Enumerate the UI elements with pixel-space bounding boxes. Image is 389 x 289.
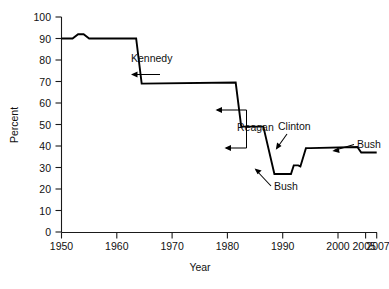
x-axis-title: Year xyxy=(189,261,211,273)
x-tick-label-1970: 1970 xyxy=(160,240,184,252)
x-tick-label-1990: 1990 xyxy=(271,240,295,252)
annotation-reagan: Reagan xyxy=(216,107,274,151)
annotation-bush-right-label: Bush xyxy=(357,138,381,150)
annotation-bush-right: Bush xyxy=(332,138,381,153)
y-tick-label-40: 40 xyxy=(39,140,51,152)
annotation-bush-trough-arrowhead xyxy=(255,169,262,175)
annotation-reagan-upper-arrowhead xyxy=(216,107,223,113)
series-line-path xyxy=(62,34,377,174)
x-tick-label-2000: 2000 xyxy=(326,240,350,252)
x-tick-label-1950: 1950 xyxy=(50,240,74,252)
line-chart-svg: 100 90 80 70 60 50 40 30 20 10 0 Percent xyxy=(0,0,389,289)
annotation-clinton-label: Clinton xyxy=(278,120,311,132)
y-tick-label-20: 20 xyxy=(39,183,51,195)
x-axis: 1950 1960 1970 1980 1990 2000 2005 2007 … xyxy=(50,233,389,274)
y-tick-label-60: 60 xyxy=(39,97,51,109)
annotation-reagan-label: Reagan xyxy=(237,121,274,133)
y-tick-label-80: 80 xyxy=(39,54,51,66)
chart-figure: 100 90 80 70 60 50 40 30 20 10 0 Percent xyxy=(0,0,389,289)
y-tick-label-50: 50 xyxy=(39,119,51,131)
annotation-kennedy: Kennedy xyxy=(131,52,173,77)
y-tick-label-70: 70 xyxy=(39,76,51,88)
y-tick-label-90: 90 xyxy=(39,33,51,45)
y-tick-label-10: 10 xyxy=(39,205,51,217)
annotation-clinton: Clinton xyxy=(276,120,311,150)
y-tick-label-30: 30 xyxy=(39,162,51,174)
annotation-kennedy-label: Kennedy xyxy=(131,52,173,64)
y-tick-label-100: 100 xyxy=(33,11,51,23)
page-footer-fragment xyxy=(0,273,389,289)
x-tick-label-2007: 2007 xyxy=(366,240,389,252)
annotation-kennedy-arrowhead xyxy=(131,72,138,78)
annotation-bush-trough-label: Bush xyxy=(274,180,298,192)
y-tick-label-0: 0 xyxy=(45,226,51,238)
annotation-reagan-lower-arrowhead xyxy=(225,145,232,151)
data-series-percent xyxy=(62,34,377,174)
y-axis-title: Percent xyxy=(8,107,20,143)
y-axis: 100 90 80 70 60 50 40 30 20 10 0 Percent xyxy=(8,11,62,238)
x-tick-label-1960: 1960 xyxy=(105,240,129,252)
x-tick-label-1980: 1980 xyxy=(216,240,240,252)
